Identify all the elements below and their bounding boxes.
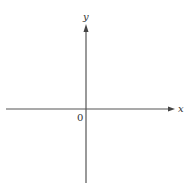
coordinate-axes-diagram: y x 0 xyxy=(0,0,184,183)
y-axis-label: y xyxy=(82,11,89,22)
origin-label: 0 xyxy=(77,112,83,123)
background xyxy=(0,0,184,183)
x-axis-label: x xyxy=(178,103,184,114)
